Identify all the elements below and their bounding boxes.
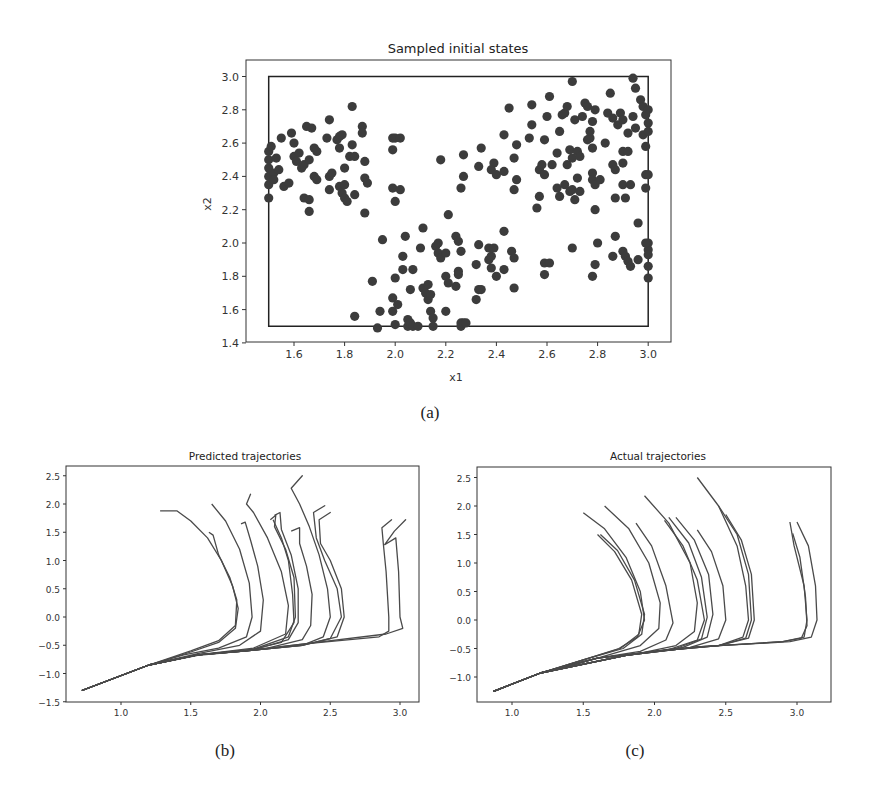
scatter-point xyxy=(537,160,546,169)
scatter-point xyxy=(368,277,377,286)
x-tick-label: 2.5 xyxy=(719,708,733,718)
y-tick-label: 0.0 xyxy=(46,613,61,623)
scatter-point xyxy=(472,260,481,269)
trajectory-line xyxy=(494,515,755,692)
x-tick-label: 3.0 xyxy=(639,348,657,361)
trajectory-line xyxy=(82,532,237,690)
y-tick-label: 1.0 xyxy=(46,557,61,567)
scatter-point xyxy=(585,127,594,136)
scatter-point xyxy=(555,127,564,136)
scatter-point xyxy=(540,170,549,179)
scatter-point xyxy=(548,160,557,169)
axes-frame-c xyxy=(477,467,831,702)
scatter-point xyxy=(322,134,331,143)
scatter-point xyxy=(350,312,359,321)
scatter-point xyxy=(360,157,369,166)
scatter-point xyxy=(343,197,352,206)
scatter-point xyxy=(532,203,541,212)
scatter-point xyxy=(621,193,630,202)
scatter-point xyxy=(535,192,544,201)
y-tick-label: 2.0 xyxy=(46,500,61,510)
y-tick-label: −1.0 xyxy=(449,673,471,683)
y-tick-label: 0.0 xyxy=(457,616,472,626)
scatter-point xyxy=(444,210,453,219)
scatter-point xyxy=(388,184,397,193)
scatter-point xyxy=(424,280,433,289)
scatter-point xyxy=(434,238,443,247)
y-tick-label: 2.0 xyxy=(457,502,472,512)
scatter-point xyxy=(284,179,293,188)
scatter-point xyxy=(325,185,334,194)
scatter-point xyxy=(509,185,518,194)
trajectory-line xyxy=(82,513,344,691)
scatter-point xyxy=(436,155,445,164)
scatter-point xyxy=(287,129,296,138)
scatter-point xyxy=(626,180,635,189)
scatter-point xyxy=(335,144,344,153)
scatter-point xyxy=(348,140,357,149)
scatter-point xyxy=(264,155,273,164)
x-tick-label: 1.6 xyxy=(285,348,303,361)
y-tick-label: −1.0 xyxy=(38,670,60,680)
scatter-point xyxy=(363,179,372,188)
figure: Sampled initial states 1.61.82.02.22.42.… xyxy=(0,0,871,792)
trajectory-line xyxy=(494,535,645,692)
scatter-point xyxy=(512,175,521,184)
y-tick-label: 2.4 xyxy=(222,170,240,183)
scatter-point xyxy=(459,172,468,181)
scatter-point xyxy=(553,149,562,158)
scatter-point xyxy=(540,270,549,279)
scatter-point xyxy=(631,84,640,93)
scatter-point xyxy=(611,193,620,202)
scatter-point xyxy=(505,104,514,113)
scatter-point xyxy=(628,74,637,83)
scatter-point xyxy=(578,112,587,121)
scatter-point xyxy=(499,227,508,236)
scatter-point xyxy=(312,147,321,156)
y-tick-label: −0.5 xyxy=(38,641,60,651)
scatter-point xyxy=(512,140,521,149)
scatter-point xyxy=(451,282,460,291)
panel-b-predicted: Predicted trajectories 1.01.52.02.53.0 −… xyxy=(38,450,419,760)
y-tick-label: 1.8 xyxy=(222,270,240,283)
x-tick-label: 2.0 xyxy=(386,348,404,361)
scatter-point xyxy=(413,322,422,331)
scatter-point xyxy=(527,120,536,129)
y-tick-label: 2.2 xyxy=(222,204,240,217)
x-tick-label: 1.0 xyxy=(505,708,520,718)
trajectory-line xyxy=(82,520,406,691)
trajectory-line xyxy=(494,506,752,691)
x-tick-label: 1.5 xyxy=(576,708,590,718)
x-tick-label: 1.0 xyxy=(114,708,129,718)
scatter-point xyxy=(338,130,347,139)
scatter-point xyxy=(375,307,384,316)
chart-title-c: Actual trajectories xyxy=(610,450,706,462)
scatter-point xyxy=(398,265,407,274)
y-tick-label: 3.0 xyxy=(222,71,240,84)
scatter-point xyxy=(307,124,316,133)
scatter-point xyxy=(289,139,298,148)
scatter-point xyxy=(348,102,357,111)
scatter-point xyxy=(264,193,273,202)
scatter-point xyxy=(499,265,508,274)
trajectory-lines-c xyxy=(494,478,818,692)
scatter-point xyxy=(429,313,438,322)
trajectory-line xyxy=(494,517,708,691)
scatter-point xyxy=(575,187,584,196)
scatter-point xyxy=(401,232,410,241)
scatter-point xyxy=(509,253,518,262)
x-tick-label: 2.0 xyxy=(647,708,662,718)
scatter-point xyxy=(378,235,387,244)
scatter-point xyxy=(441,307,450,316)
scatter-point xyxy=(623,147,632,156)
scatter-point xyxy=(545,258,554,267)
scatter-point xyxy=(591,260,600,269)
scatter-point xyxy=(588,144,597,153)
caption-c: (c) xyxy=(626,741,645,760)
trajectory-line xyxy=(494,520,705,691)
chart-title-b: Predicted trajectories xyxy=(189,450,301,462)
scatter-point xyxy=(295,149,304,158)
scatter-point xyxy=(393,300,402,309)
scatter-point xyxy=(373,323,382,332)
scatter-point xyxy=(644,119,653,128)
